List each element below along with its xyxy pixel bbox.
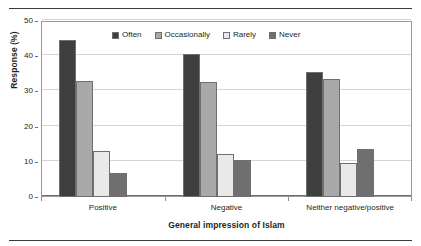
legend-entry[interactable]: Occasionally — [155, 31, 210, 39]
legend-swatch-icon — [155, 32, 162, 39]
bar[interactable] — [357, 149, 374, 197]
y-tick-mark — [35, 127, 38, 128]
bar[interactable] — [59, 40, 76, 197]
legend-entry[interactable]: Often — [112, 31, 142, 39]
gridline-50 — [42, 19, 411, 20]
legend-swatch-icon — [269, 32, 276, 39]
bar[interactable] — [217, 154, 234, 197]
bar[interactable] — [234, 160, 251, 197]
legend-entry[interactable]: Rarely — [223, 31, 256, 39]
legend-label: Rarely — [233, 31, 256, 39]
bar[interactable] — [110, 173, 127, 197]
y-tick-mark — [35, 56, 38, 57]
bar-chart-figure: Response (%) 01020304050 PositiveNegativ… — [0, 0, 421, 246]
legend-swatch-icon — [223, 32, 230, 39]
y-tick-label: 20 — [24, 123, 33, 131]
bar-group — [183, 21, 251, 197]
bar[interactable] — [306, 72, 323, 197]
x-axis-ticks — [41, 197, 412, 201]
bar[interactable] — [200, 82, 217, 197]
legend-label: Never — [279, 31, 300, 39]
bar[interactable] — [340, 163, 357, 197]
x-tick-mark — [165, 197, 166, 201]
x-axis-labels: PositiveNegativeNeither negative/positiv… — [41, 203, 412, 215]
legend: OftenOccasionallyRarelyNever — [112, 29, 300, 41]
legend-swatch-icon — [112, 32, 119, 39]
legend-entry[interactable]: Never — [269, 31, 300, 39]
x-tick-label: Neither negative/positive — [306, 203, 394, 213]
legend-label: Occasionally — [165, 31, 210, 39]
y-tick-mark — [35, 21, 38, 22]
x-tick-mark — [411, 197, 412, 201]
y-tick-label: 10 — [24, 158, 33, 166]
y-tick-mark — [35, 162, 38, 163]
y-tick-mark — [35, 197, 38, 198]
bottom-divider-rule — [9, 240, 412, 241]
x-tick-label: Positive — [89, 203, 117, 213]
bar[interactable] — [93, 151, 110, 197]
bar-group — [306, 21, 374, 197]
y-axis: 01020304050 — [0, 21, 38, 197]
legend-label: Often — [122, 31, 142, 39]
bar[interactable] — [76, 81, 93, 197]
x-tick-mark — [288, 197, 289, 201]
y-tick-label: 40 — [24, 52, 33, 60]
bar-group — [59, 21, 127, 197]
top-divider-rule — [9, 8, 412, 9]
y-tick-label: 50 — [24, 17, 33, 25]
bar[interactable] — [323, 79, 340, 197]
x-tick-label: Negative — [211, 203, 243, 213]
bar[interactable] — [183, 54, 200, 197]
y-tick-mark — [35, 91, 38, 92]
y-tick-label: 0 — [29, 193, 33, 201]
x-axis-title: General impression of Islam — [41, 220, 412, 230]
bars-layer — [41, 21, 412, 197]
y-tick-label: 30 — [24, 87, 33, 95]
x-tick-mark — [41, 197, 42, 201]
